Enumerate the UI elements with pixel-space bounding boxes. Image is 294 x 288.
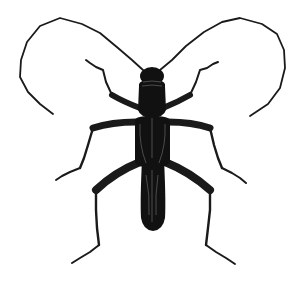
- right-mid-leg: [168, 122, 246, 183]
- beetle-body: [135, 67, 170, 231]
- left-front-leg: [86, 60, 140, 108]
- beetle-illustration: [0, 0, 294, 288]
- right-hind-leg: [165, 162, 235, 264]
- left-hind-leg: [72, 162, 140, 263]
- abdomen: [141, 160, 166, 231]
- right-front-leg: [163, 62, 218, 108]
- illustration-canvas: longhorn beetle: [0, 0, 294, 288]
